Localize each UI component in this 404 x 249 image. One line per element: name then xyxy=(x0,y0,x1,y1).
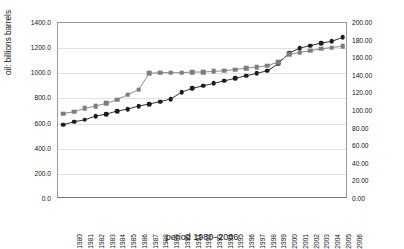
y-axis-left-tick-label: 200.0 xyxy=(34,169,51,176)
y-axis-left-tick-label: 1000.0 xyxy=(31,69,51,76)
y-axis-right-tick-label: 120.00 xyxy=(352,89,372,96)
y-axis-right-tick-label: 0.00 xyxy=(352,195,365,202)
data-point-marker xyxy=(319,46,324,51)
data-point-marker xyxy=(340,44,345,49)
x-axis-tick-label: 2006 xyxy=(355,234,362,249)
y-axis-left-tick-label: 600.0 xyxy=(34,119,51,126)
data-point-marker xyxy=(147,102,152,107)
data-point-marker xyxy=(265,68,270,73)
data-point-marker xyxy=(211,81,216,86)
data-point-marker xyxy=(244,73,249,78)
y-axis-left-tick-label: 0.0 xyxy=(42,195,51,202)
data-point-marker xyxy=(340,35,345,40)
data-point-marker xyxy=(126,107,131,112)
data-point-marker xyxy=(297,50,302,55)
data-point-marker xyxy=(136,87,141,92)
data-point-marker xyxy=(104,101,109,106)
y-axis-left-ticks: 0.0200.0400.0600.0800.01000.01200.01400.… xyxy=(0,0,55,249)
y-axis-right-tick-label: 160.00 xyxy=(352,54,372,61)
y-axis-right-ticks: 0.0020.0040.0060.0080.00100.00120.00140.… xyxy=(350,0,396,249)
data-point-marker xyxy=(72,109,77,114)
x-axis-title: period 1980–2006 xyxy=(57,232,347,242)
data-point-marker xyxy=(201,70,206,75)
data-point-marker xyxy=(308,43,313,48)
y-axis-right-tick-label: 200.00 xyxy=(352,19,372,26)
data-point-marker xyxy=(115,109,120,114)
plot-area xyxy=(57,22,347,198)
y-axis-right-tick-label: 180.00 xyxy=(352,36,372,43)
data-point-marker xyxy=(276,60,281,65)
data-point-marker xyxy=(158,70,163,75)
data-point-marker xyxy=(222,79,227,84)
data-point-marker xyxy=(211,69,216,74)
data-point-marker xyxy=(190,70,195,75)
data-point-marker xyxy=(190,86,195,91)
data-point-marker xyxy=(147,71,152,76)
y-axis-left-tick-label: 800.0 xyxy=(34,94,51,101)
data-point-marker xyxy=(61,111,66,116)
data-point-marker xyxy=(254,65,259,70)
data-point-marker xyxy=(233,67,238,72)
y-axis-left-tick-label: 400.0 xyxy=(34,144,51,151)
data-point-marker xyxy=(93,104,98,109)
y-axis-right-tick-label: 20.00 xyxy=(352,177,369,184)
y-axis-left-tick-label: 1400.0 xyxy=(31,19,51,26)
x-axis-ticks: 1980198119821983198419851986198719881989… xyxy=(57,200,347,234)
y-axis-right-tick-label: 140.00 xyxy=(352,71,372,78)
data-point-marker xyxy=(330,39,335,44)
data-point-marker xyxy=(330,45,335,50)
data-point-marker xyxy=(126,92,131,97)
data-point-marker xyxy=(179,90,184,95)
data-point-marker xyxy=(168,70,173,75)
data-point-marker xyxy=(115,97,120,102)
data-point-marker xyxy=(222,68,227,73)
data-point-marker xyxy=(265,63,270,68)
data-point-marker xyxy=(61,123,66,128)
y-axis-right-tick-label: 100.00 xyxy=(352,107,372,114)
y-axis-left-tick-label: 1200.0 xyxy=(31,44,51,51)
data-point-marker xyxy=(93,114,98,119)
data-point-marker xyxy=(136,104,141,109)
data-point-marker xyxy=(201,84,206,89)
y-axis-right-tick-label: 60.00 xyxy=(352,142,369,149)
data-point-marker xyxy=(319,41,324,46)
data-point-marker xyxy=(287,52,292,57)
y-axis-right-tick-label: 80.00 xyxy=(352,124,369,131)
series-lines xyxy=(58,23,348,199)
data-point-marker xyxy=(254,71,259,76)
data-point-marker xyxy=(179,70,184,75)
chart-container: oil: billions barrels 0.0200.0400.0600.0… xyxy=(0,0,404,249)
data-point-marker xyxy=(72,119,77,124)
y-axis-right-tick-label: 40.00 xyxy=(352,159,369,166)
data-point-marker xyxy=(83,106,88,111)
data-point-marker xyxy=(308,48,313,53)
data-point-marker xyxy=(104,112,109,117)
data-point-marker xyxy=(233,76,238,81)
data-point-marker xyxy=(158,99,163,104)
data-point-marker xyxy=(168,97,173,102)
data-point-marker xyxy=(83,117,88,122)
data-point-marker xyxy=(244,66,249,71)
